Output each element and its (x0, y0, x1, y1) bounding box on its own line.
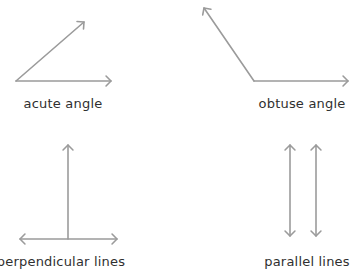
acute-angle-figure (16, 22, 111, 86)
obtuse-angle-figure (203, 8, 348, 86)
acute-angle-label: acute angle (24, 96, 103, 111)
obtuse-angle-label: obtuse angle (259, 96, 346, 111)
acute-line (16, 22, 84, 81)
geometry-diagram: acute angle obtuse angle perpendicular l… (0, 0, 357, 274)
parallel-lines-figure (285, 145, 321, 236)
diagram-canvas (0, 0, 357, 274)
obtuse-line (204, 8, 254, 81)
parallel-lines-label: parallel lines (264, 254, 350, 269)
perpendicular-lines-figure (20, 145, 117, 244)
perpendicular-lines-label: perpendicular lines (0, 254, 125, 269)
